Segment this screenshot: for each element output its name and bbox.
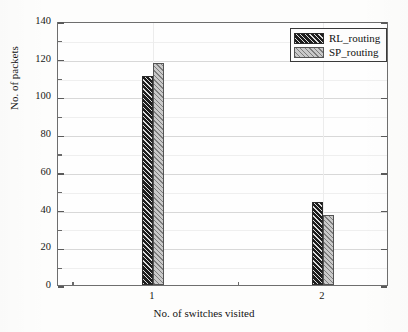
legend-item-rl-routing[interactable]: RL_routing (294, 31, 383, 45)
y-tick-major (58, 98, 64, 99)
bar-sp-routing-cat-2 (323, 215, 334, 285)
y-tick-minor (58, 117, 62, 118)
x-tick-label: 2 (302, 290, 342, 301)
y-tick-label: 60 (5, 166, 51, 177)
y-tick-label: 100 (5, 90, 51, 101)
legend-item-sp-routing[interactable]: SP_routing (294, 45, 383, 59)
y-tick-minor (58, 268, 62, 269)
gridline-horizontal (58, 80, 387, 81)
y-tick-major (58, 249, 64, 250)
bar-rl-routing-cat-2 (312, 202, 323, 285)
bar-rl-routing-cat-1 (142, 76, 153, 285)
chart-page: No. of packets 020406080100120140 12 RL_… (0, 0, 408, 332)
legend[interactable]: RL_routing SP_routing (290, 28, 387, 62)
y-tick-major-right (381, 98, 387, 99)
y-tick-major-right (381, 22, 387, 23)
y-tick-label: 140 (5, 15, 51, 26)
y-tick-label: 40 (5, 204, 51, 215)
y-tick-major (58, 173, 64, 174)
y-tick-major (58, 136, 64, 137)
legend-label-sp-routing: SP_routing (329, 46, 379, 58)
y-tick-major (58, 60, 64, 61)
legend-swatch-rl-routing-icon (294, 33, 324, 44)
gridline-horizontal (58, 174, 387, 175)
y-tick-major (58, 286, 64, 287)
x-tick-minor (72, 282, 73, 286)
y-tick-major-right (381, 136, 387, 137)
gridline-horizontal (58, 117, 387, 118)
y-tick-label: 80 (5, 128, 51, 139)
y-tick-minor (58, 192, 62, 193)
y-tick-minor (58, 79, 62, 80)
gridline-horizontal (58, 155, 387, 156)
y-tick-major-right (381, 249, 387, 250)
gridline-horizontal (58, 98, 387, 99)
x-tick-minor (238, 282, 239, 286)
y-tick-major (58, 22, 64, 23)
bar-sp-routing-cat-1 (153, 63, 164, 286)
y-tick-minor (58, 154, 62, 155)
gridline-horizontal (58, 193, 387, 194)
gridline-horizontal (58, 268, 387, 269)
legend-swatch-sp-routing-icon (294, 47, 324, 58)
legend-label-rl-routing: RL_routing (329, 32, 380, 44)
gridline-horizontal (58, 136, 387, 137)
y-tick-major-right (381, 286, 387, 287)
x-axis-title: No. of switches visited (0, 307, 408, 319)
gridline-horizontal (58, 249, 387, 250)
y-tick-label: 120 (5, 53, 51, 64)
gridline-horizontal (58, 230, 387, 231)
y-tick-major-right (381, 173, 387, 174)
y-tick-minor (58, 41, 62, 42)
y-tick-label: 0 (5, 279, 51, 290)
gridline-horizontal (58, 212, 387, 213)
x-tick-label: 1 (132, 290, 172, 301)
y-tick-label: 20 (5, 241, 51, 252)
y-tick-major (58, 211, 64, 212)
y-tick-minor (58, 230, 62, 231)
y-tick-major-right (381, 211, 387, 212)
